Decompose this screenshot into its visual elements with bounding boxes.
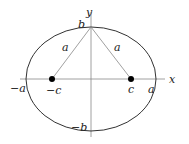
left-focal-segment <box>52 27 91 79</box>
x-axis-label: x <box>169 73 176 86</box>
b-label: b <box>78 18 85 31</box>
y-axis-label: y <box>85 6 93 19</box>
neg-b-label: −b <box>71 121 87 134</box>
a-label: a <box>148 83 155 96</box>
right-focus-point <box>128 76 134 82</box>
right-segment-label: a <box>114 41 121 54</box>
neg-c-label: −c <box>46 84 61 97</box>
neg-a-label: −a <box>10 82 26 95</box>
left-focus-point <box>49 76 55 82</box>
ellipse-diagram: x y b −b −a a −c c a a <box>0 0 189 144</box>
c-label: c <box>128 83 134 96</box>
left-segment-label: a <box>62 41 69 54</box>
